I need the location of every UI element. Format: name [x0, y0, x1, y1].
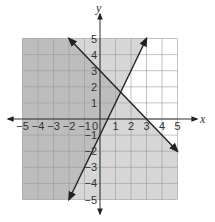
y-tick-label: −5	[84, 194, 97, 206]
y-tick-label: −2	[84, 145, 97, 157]
y-tick-label: −3	[84, 161, 97, 173]
y-tick-label: 4	[91, 49, 97, 61]
x-tick-label: −5	[16, 120, 29, 132]
x-tick-label: 1	[112, 120, 118, 132]
y-tick-label: 5	[91, 33, 97, 45]
x-tick-label: −3	[47, 120, 60, 132]
x-axis-label: x	[199, 112, 206, 126]
x-tick-label: −2	[63, 120, 76, 132]
inequality-graph: −5−4−3−2−101234554321−1−2−3−4−5xy	[0, 0, 215, 222]
y-tick-label: 2	[91, 81, 97, 93]
y-tick-label: −1	[84, 129, 97, 141]
x-tick-label: 5	[174, 120, 180, 132]
y-tick-label: −4	[84, 177, 97, 189]
x-tick-label: 3	[143, 120, 149, 132]
y-axis-label: y	[95, 1, 102, 15]
x-tick-label: −4	[32, 120, 45, 132]
y-tick-label: 3	[91, 65, 97, 77]
x-tick-label: 2	[128, 120, 134, 132]
x-tick-label: 4	[159, 120, 165, 132]
y-tick-label: 1	[91, 97, 97, 109]
